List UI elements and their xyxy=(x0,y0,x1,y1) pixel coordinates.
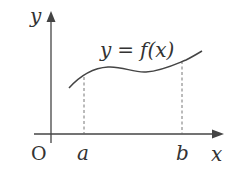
curve-label-eq: = xyxy=(117,38,134,62)
marker-b-label: b xyxy=(176,141,189,165)
x-axis-arrow-icon xyxy=(212,130,224,139)
y-axis-arrow-icon xyxy=(47,11,56,22)
curve-label: y = f(x) xyxy=(99,38,174,62)
curve-label-rhs: f(x) xyxy=(138,38,174,62)
x-axis-label: x xyxy=(211,142,222,166)
diagram-svg: y x O a b y = f(x) xyxy=(0,0,245,169)
y-axis-label: y xyxy=(29,4,42,28)
marker-a-label: a xyxy=(77,141,89,165)
origin-label: O xyxy=(31,142,47,164)
curve-label-lhs: y xyxy=(99,38,112,62)
function-graph-diagram: y x O a b y = f(x) xyxy=(0,0,245,169)
